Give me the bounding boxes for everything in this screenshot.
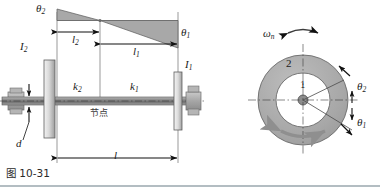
- label-theta2-mode: θ2: [36, 2, 45, 16]
- cross-section-group: [248, 30, 358, 157]
- bearing-foot-right: [188, 109, 199, 115]
- disc-left-I2: [44, 60, 55, 138]
- figure-10-31: θ2 θ1 l2 l1 l I2 I1 k2 k1 节点 d ωn 2 1 θ2…: [0, 0, 380, 191]
- figure-caption: 图 10-31: [6, 165, 50, 180]
- arrow-theta1-direction: [341, 124, 352, 135]
- bearing-cap-right: [188, 86, 199, 92]
- shaft-assembly-group: [0, 60, 204, 140]
- mode-shape-triangle-left: [57, 9, 100, 21]
- bearing-block-right: [186, 92, 201, 110]
- label-theta1-mode: θ1: [181, 26, 190, 40]
- label-I2-disc-left: I2: [20, 40, 27, 54]
- label-I1-disc-right: I1: [185, 58, 192, 72]
- label-k2-stiffness-left: k2: [73, 80, 82, 94]
- label-theta2-section: θ2: [357, 80, 366, 94]
- label-k1-stiffness-right: k1: [130, 80, 139, 94]
- label-region-2: 2: [286, 57, 292, 69]
- label-l2: l2: [72, 33, 79, 47]
- label-theta1-section: θ1: [357, 116, 366, 130]
- label-node-chinese: 节点: [90, 106, 108, 119]
- label-l-total: l: [114, 149, 117, 161]
- bearing-cap-left: [10, 88, 22, 93]
- arrow-omega-n-top: [288, 30, 318, 34]
- label-omega-n: ωn: [263, 27, 275, 41]
- label-d-diameter: d: [16, 137, 22, 149]
- label-region-1: 1: [300, 78, 306, 90]
- disc-right-I1: [174, 72, 182, 130]
- leader-line-d: [23, 122, 29, 140]
- bearing-foot-left: [10, 109, 22, 114]
- arrow-theta2-direction: [339, 66, 350, 76]
- node-point-marker: [98, 19, 101, 22]
- label-l1: l1: [133, 45, 140, 59]
